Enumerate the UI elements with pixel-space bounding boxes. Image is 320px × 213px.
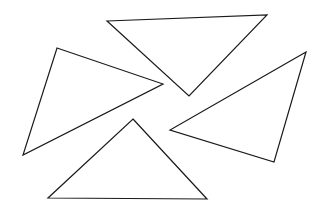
canvas-background: [0, 0, 320, 213]
figure-canvas: [0, 0, 320, 213]
